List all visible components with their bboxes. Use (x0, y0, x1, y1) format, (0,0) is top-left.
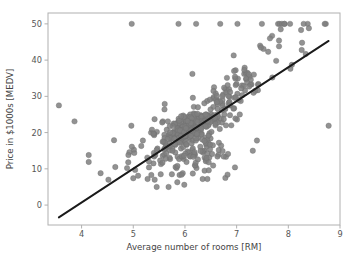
scatter-point (232, 74, 237, 79)
scatter-point (282, 21, 287, 26)
scatter-point (207, 142, 212, 147)
scatter-point (106, 177, 111, 182)
scatter-point (151, 131, 156, 136)
scatter-point (181, 153, 186, 158)
scatter-point (265, 49, 270, 54)
scatter-point (225, 82, 230, 87)
scatter-point (152, 177, 157, 182)
scatter-point (326, 123, 331, 128)
y-tick-label: 40 (32, 55, 42, 65)
y-axis-ticks: 01020304050 (32, 19, 48, 210)
scatter-point (278, 27, 283, 32)
x-tick-label: 7 (234, 229, 239, 239)
scatter-point (231, 53, 236, 58)
scatter-point (184, 159, 189, 164)
scatter-point (167, 130, 172, 135)
scatter-point (175, 163, 180, 168)
scatter-point (113, 164, 118, 169)
scatter-point (163, 156, 168, 161)
scatter-point (209, 151, 214, 156)
scatter-point (223, 123, 228, 128)
x-tick-label: 6 (182, 229, 187, 239)
scatter-point (204, 155, 209, 160)
scatter-point (179, 172, 184, 177)
scatter-point (188, 133, 193, 138)
scatter-point (221, 154, 226, 159)
scatter-point (202, 101, 207, 106)
scatter-point (215, 154, 220, 159)
scatter-point (184, 141, 189, 146)
scatter-point (306, 26, 311, 31)
x-tick-label: 9 (337, 229, 342, 239)
scatter-point (154, 184, 159, 189)
scatter-point (220, 93, 225, 98)
x-tick-label: 4 (79, 229, 84, 239)
scatter-point (232, 165, 237, 170)
scatter-point (86, 159, 91, 164)
scatter-point (129, 123, 134, 128)
scatter-point (259, 21, 264, 26)
scatter-point (194, 131, 199, 136)
scatter-point (242, 67, 247, 72)
scatter-point (149, 172, 154, 177)
scatter-point (131, 176, 136, 181)
scatter-point (191, 154, 196, 159)
scatter-point (170, 148, 175, 153)
scatter-point (214, 93, 219, 98)
y-axis-title: Price in $1000s [MEDV] (5, 69, 15, 170)
y-tick-label: 20 (32, 128, 42, 138)
scatter-point (198, 148, 203, 153)
scatter-point (178, 114, 183, 119)
scatter-point (135, 173, 140, 178)
scatter-point (299, 47, 304, 52)
scatter-point (195, 111, 200, 116)
scatter-point (190, 95, 195, 100)
scatter-point (224, 75, 229, 80)
scatter-point (162, 107, 167, 112)
scatter-point (246, 84, 251, 89)
y-tick-label: 10 (32, 164, 42, 174)
scatter-point (211, 88, 216, 93)
y-tick-label: 30 (32, 91, 42, 101)
scatter-point (177, 140, 182, 145)
scatter-point (195, 105, 200, 110)
scatter-point (217, 126, 222, 131)
scatter-point (205, 176, 210, 181)
scatter-point (301, 21, 306, 26)
scatter-point (214, 99, 219, 104)
x-tick-label: 5 (131, 229, 136, 239)
scatter-point (235, 21, 240, 26)
scatter-point (166, 184, 171, 189)
scatter-point (72, 119, 77, 124)
y-tick-label: 0 (37, 200, 42, 210)
scatter-point (185, 118, 190, 123)
scatter-point (322, 21, 327, 26)
scatter-point (165, 119, 170, 124)
scatter-point (207, 97, 212, 102)
scatter-point (140, 138, 145, 143)
scatter-point (206, 168, 211, 173)
scatter-point (182, 182, 187, 187)
scatter-point (231, 68, 236, 73)
scatter-point (221, 116, 226, 121)
scatter-point (152, 116, 157, 121)
scatter-point (183, 126, 188, 131)
scatter-point (175, 180, 180, 185)
scatter-point (231, 106, 236, 111)
scatter-point (208, 107, 213, 112)
scatter-point (276, 44, 281, 49)
scatter-point (129, 144, 134, 149)
scatter-point (237, 112, 242, 117)
scatter-point (233, 94, 238, 99)
scatter-point (233, 82, 238, 87)
scatter-point (209, 129, 214, 134)
scatter-point (227, 112, 232, 117)
scatter-point (218, 143, 223, 148)
scatter-point (218, 21, 223, 26)
scatter-point (160, 120, 165, 125)
scatter-point (192, 149, 197, 154)
scatter-point (146, 165, 151, 170)
scatter-point (195, 119, 200, 124)
scatter-point (193, 21, 198, 26)
scatter-point (169, 172, 174, 177)
